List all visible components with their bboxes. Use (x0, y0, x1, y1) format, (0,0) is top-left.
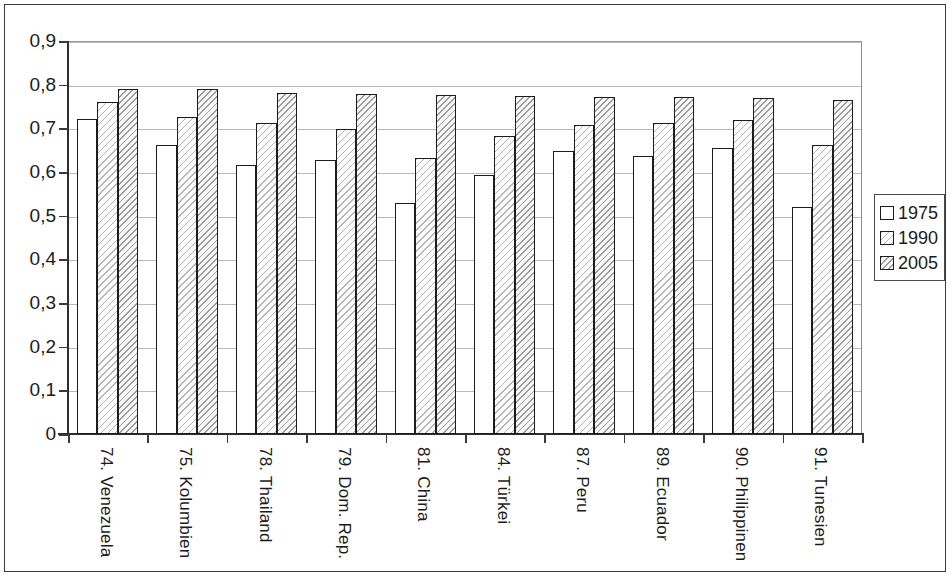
y-axis-tick (59, 303, 68, 305)
x-axis-tick (544, 434, 546, 443)
bar (594, 97, 615, 434)
legend-item: 1990 (880, 225, 938, 250)
bar (833, 100, 854, 434)
gridline (68, 86, 861, 87)
y-axis-line (67, 41, 69, 435)
y-axis-tick (59, 85, 68, 87)
gridline (68, 42, 861, 43)
bar (356, 94, 377, 434)
bar (415, 158, 436, 434)
bar (753, 98, 774, 434)
bar (515, 96, 536, 434)
y-axis-tick-label: 0,6 (4, 161, 56, 183)
legend-swatch-icon (880, 206, 894, 220)
x-axis-tick (862, 434, 864, 443)
x-axis-category-label: 87. Peru (572, 447, 592, 513)
y-axis-tick-label: 0,8 (4, 74, 56, 96)
y-axis-tick-label: 0,5 (4, 205, 56, 227)
bar (197, 89, 218, 434)
x-axis-tick (624, 434, 626, 443)
y-axis-tick (59, 128, 68, 130)
bar (733, 120, 754, 434)
x-axis-category-label: 79. Dom. Rep. (334, 447, 354, 559)
y-axis-tick (59, 347, 68, 349)
legend-swatch-icon (880, 256, 894, 270)
bar (494, 136, 515, 434)
x-axis-category-label: 91. Tunesien (810, 447, 830, 547)
bar (574, 125, 595, 434)
bar (553, 151, 574, 434)
x-axis-tick (386, 434, 388, 443)
y-axis-tick (59, 434, 68, 436)
bar (712, 148, 733, 434)
bar (633, 156, 654, 434)
bar (177, 117, 198, 434)
bar (156, 145, 177, 434)
x-axis-tick (227, 434, 229, 443)
x-axis-category-label: 74. Venezuela (96, 447, 116, 557)
y-axis-tick-label: 0,7 (4, 117, 56, 139)
y-axis-tick-label: 0,4 (4, 248, 56, 270)
x-axis-tick (147, 434, 149, 443)
x-axis-category-label: 90. Philippinen (731, 447, 751, 562)
bar (674, 97, 695, 434)
legend-label: 1990 (898, 229, 938, 247)
bar (436, 95, 457, 434)
y-axis-tick (59, 259, 68, 261)
y-axis-tick-label: 0,2 (4, 336, 56, 358)
x-axis-tick (703, 434, 705, 443)
bar (336, 129, 357, 434)
bar (474, 175, 495, 434)
y-axis-tick-label: 0,3 (4, 292, 56, 314)
x-axis-category-label: 89. Ecuador (652, 447, 672, 541)
y-axis-tick (59, 216, 68, 218)
x-axis-category-label: 81. China (413, 447, 433, 522)
x-axis-category-label: 75. Kolumbien (175, 447, 195, 558)
x-axis-category-label: 84. Türkei (493, 447, 513, 524)
bar (97, 102, 118, 434)
y-axis-tick (59, 41, 68, 43)
bar-chart: 00,10,20,30,40,50,60,70,80,9 74. Venezue… (0, 0, 952, 578)
bar (277, 93, 298, 434)
y-axis-tick (59, 172, 68, 174)
bar (256, 123, 277, 434)
bar (395, 203, 416, 434)
bar (812, 145, 833, 434)
legend-item: 2005 (880, 250, 938, 275)
bar (792, 207, 813, 434)
bar (315, 160, 336, 434)
bar (118, 89, 139, 434)
bar (653, 123, 674, 434)
legend-item: 1975 (880, 200, 938, 225)
x-axis-tick (68, 434, 70, 443)
y-axis-tick-label: 0,1 (4, 379, 56, 401)
bar (236, 165, 257, 434)
chart-legend: 197519902005 (874, 194, 945, 281)
x-axis-tick (465, 434, 467, 443)
legend-label: 1975 (898, 204, 938, 222)
y-axis-tick-label: 0,9 (4, 30, 56, 52)
y-axis-labels: 00,10,20,30,40,50,60,70,80,9 (0, 0, 56, 578)
legend-label: 2005 (898, 254, 938, 272)
x-axis-tick (306, 434, 308, 443)
legend-swatch-icon (880, 231, 894, 245)
y-axis-tick-label: 0 (4, 423, 56, 445)
y-axis-tick (59, 390, 68, 392)
bar (77, 119, 98, 434)
x-axis-category-label: 78. Thailand (255, 447, 275, 543)
x-axis-tick (783, 434, 785, 443)
